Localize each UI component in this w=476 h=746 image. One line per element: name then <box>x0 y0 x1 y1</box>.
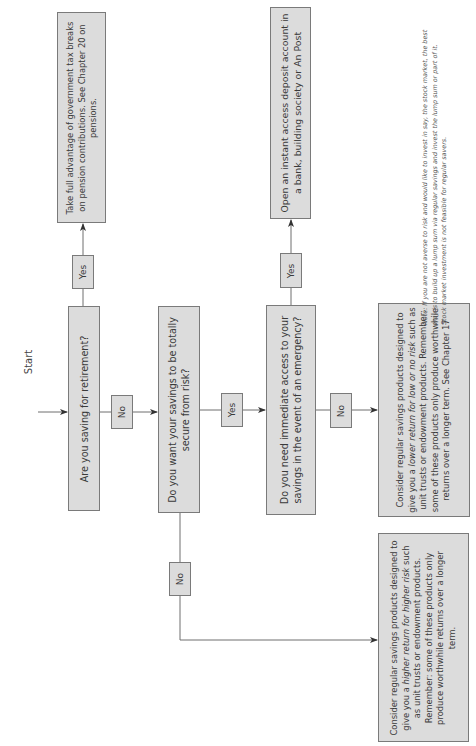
branch-label-emergency-yes: Yes <box>280 253 302 288</box>
label-text: No <box>117 406 127 418</box>
label-text: No <box>175 573 185 585</box>
branch-label-retirement-no: No <box>111 395 133 429</box>
label-text: Yes <box>286 263 296 278</box>
question-retirement-box: Are you saving for retirement? <box>68 306 100 511</box>
result-lower-return-box: Consider regular savings products design… <box>378 303 470 517</box>
result-pension-text: Take full advantage of government tax br… <box>64 18 99 218</box>
question-emergency-text: Do you need immediate access to your sav… <box>278 310 304 510</box>
branch-label-secure-no: No <box>169 562 191 596</box>
label-text: No <box>336 404 346 416</box>
branch-label-retirement-yes: Yes <box>72 255 94 289</box>
result-pension-box: Take full advantage of government tax br… <box>57 12 106 223</box>
result-higher-return-box: Consider regular savings products design… <box>378 533 469 742</box>
start-label: Start <box>18 340 38 384</box>
label-text: Yes <box>227 403 237 418</box>
result-lower-return-text: Consider regular savings products design… <box>395 307 453 513</box>
question-secure-box: Do you want your savings to be totally s… <box>158 306 200 513</box>
note-text: Note: If you are not averse to risk and … <box>421 25 450 325</box>
branch-label-emergency-no: No <box>330 393 352 428</box>
question-retirement-text: Are you saving for retirement? <box>78 310 91 508</box>
note-text-block: Note: If you are not averse to risk and … <box>404 18 466 332</box>
label-text: Yes <box>78 265 88 280</box>
question-emergency-box: Do you need immediate access to your sav… <box>266 305 316 515</box>
result-higher-return-text: Consider regular savings products design… <box>389 540 459 736</box>
start-text: Start <box>23 350 34 374</box>
question-secure-text: Do you want your savings to be totally s… <box>166 311 192 509</box>
result-deposit-text: Open an instant access deposit account i… <box>278 11 304 216</box>
result-deposit-box: Open an instant access deposit account i… <box>270 7 311 219</box>
branch-label-secure-yes: Yes <box>221 393 243 427</box>
